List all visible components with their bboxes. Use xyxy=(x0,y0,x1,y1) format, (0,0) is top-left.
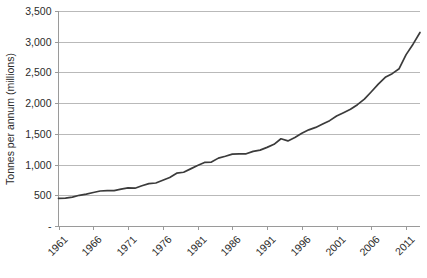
y-tick-label: 1,500 xyxy=(25,128,51,140)
gridlines xyxy=(59,12,421,196)
y-tick-labels: -5001,0001,5002,0002,5003,0003,500 xyxy=(25,5,52,232)
x-tick-label: 1966 xyxy=(79,233,104,258)
x-tick-label: 1971 xyxy=(114,233,139,258)
x-tick-label: 2001 xyxy=(323,233,348,258)
x-tick-label: 1986 xyxy=(218,233,243,258)
y-tick-label: 2,500 xyxy=(25,66,51,78)
x-tick-label: 1976 xyxy=(149,233,174,258)
y-tick-label: 2,000 xyxy=(25,97,51,109)
x-tick-label: 2011 xyxy=(392,233,417,258)
x-tick-label: 1991 xyxy=(253,233,278,258)
y-axis-title: Tonnes per annum (millions) xyxy=(4,53,16,185)
x-tick-label: 1981 xyxy=(184,233,209,258)
y-tick-label: - xyxy=(48,220,52,232)
y-tick-label: 1,000 xyxy=(25,159,51,171)
y-tick-marks xyxy=(55,12,59,227)
line-chart: -5001,0001,5002,0002,5003,0003,500 19611… xyxy=(0,0,427,278)
y-tick-label: 3,000 xyxy=(25,36,51,48)
chart-container: -5001,0001,5002,0002,5003,0003,500 19611… xyxy=(0,0,427,278)
y-tick-label: 500 xyxy=(34,189,52,201)
x-tick-labels: 1961196619711976198119861991199620012006… xyxy=(45,233,417,258)
x-tick-label: 2006 xyxy=(357,233,382,258)
x-tick-label: 1996 xyxy=(288,233,313,258)
data-series xyxy=(59,33,421,199)
series-line-tonnes-per-annum xyxy=(59,33,421,199)
y-tick-label: 3,500 xyxy=(25,5,51,17)
x-tick-label: 1961 xyxy=(45,233,70,258)
